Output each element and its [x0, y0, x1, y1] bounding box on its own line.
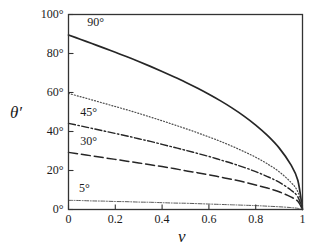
y-tick-label: 80° — [47, 47, 64, 59]
x-tick-label: 0.8 — [236, 213, 276, 225]
curve-label-5: 5° — [79, 182, 90, 194]
figure-chart-theta-prime-vs-v: 0°20°40°60°80°100° 00.20.40.60.81 90°45°… — [0, 0, 321, 251]
y-axis-title: θ′ — [10, 104, 22, 121]
y-tick-label: 40° — [47, 125, 64, 137]
x-axis-title: v — [178, 228, 186, 245]
curve-label-30: 30° — [80, 135, 97, 147]
x-tick-label: 1 — [283, 213, 321, 225]
x-tick-label: 0.2 — [95, 213, 135, 225]
x-tick-label: 0.4 — [142, 213, 182, 225]
curve-5 — [69, 200, 303, 209]
curve-60 — [69, 93, 303, 209]
y-tick-label: 20° — [47, 164, 64, 176]
curve-90 — [69, 35, 303, 210]
y-tick-label: 60° — [47, 86, 64, 98]
curve-label-45: 45° — [80, 106, 97, 118]
x-tick-label: 0.6 — [189, 213, 229, 225]
curve-label-90: 90° — [87, 16, 104, 28]
x-tick-label: 0 — [49, 213, 89, 225]
curves-group — [69, 35, 303, 210]
y-tick-label: 100° — [41, 8, 64, 20]
axis-ticks-group — [69, 15, 303, 210]
plot-frame-border — [69, 15, 303, 210]
